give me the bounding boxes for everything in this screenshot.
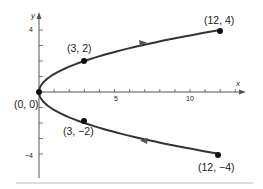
point-12-neg4 <box>215 152 221 158</box>
point-3-2 <box>81 58 87 64</box>
x-axis-arrowhead-icon <box>239 90 246 95</box>
label-12-neg4: (12, −4) <box>198 161 234 173</box>
label-3-neg2: (3, −2) <box>63 125 94 137</box>
x-tick-label-10: 10 <box>186 95 194 102</box>
point-origin <box>36 89 42 95</box>
label-12-4: (12, 4) <box>204 14 234 26</box>
x-tick-label-5: 5 <box>114 95 118 102</box>
y-tick-label-neg4: −4 <box>25 152 33 159</box>
point-3-neg2 <box>81 118 87 124</box>
y-tick-label-4: 4 <box>29 26 33 33</box>
point-12-4 <box>217 28 223 34</box>
parabola-diagram: x y 5 10 4 −4 (0, 0) (3, 2) (12, 4) (3, … <box>0 0 263 189</box>
label-3-2: (3, 2) <box>67 42 92 54</box>
y-axis-arrowhead-icon <box>37 12 42 19</box>
label-origin: (0, 0) <box>14 98 39 110</box>
y-axis-label: y <box>30 11 36 20</box>
x-axis-label: x <box>235 79 241 88</box>
